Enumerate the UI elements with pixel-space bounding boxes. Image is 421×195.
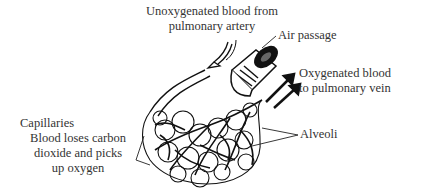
capillaries-desc-line-3: up oxygen	[14, 161, 142, 176]
incoming-blood-arrow	[208, 40, 236, 68]
oxygenated-line-1: Oxygenated blood	[299, 66, 391, 81]
outgoing-blood-arrows	[266, 74, 300, 108]
artery-outline	[150, 70, 210, 116]
alveoli-leader-2	[252, 135, 298, 146]
capillaries-title: Capillaries	[20, 116, 74, 131]
alveoli-leader-1	[262, 128, 298, 135]
air-passage-label: Air passage	[278, 28, 337, 43]
oxygenated-line-2: to pulmonary vein	[299, 81, 391, 96]
capillaries-desc-line-1: Blood loses carbon	[14, 131, 142, 146]
unoxygenated-line-1: Unoxygenated blood from	[112, 4, 312, 19]
oxygenated-blood-label: Oxygenated blood to pulmonary vein	[299, 66, 391, 96]
alveoli-label: Alveoli	[300, 127, 338, 142]
capillaries-desc-line-2: dioxide and picks	[14, 146, 142, 161]
capillaries-description: Blood loses carbon dioxide and picks up …	[14, 131, 142, 176]
air-passage-tube	[231, 43, 281, 96]
